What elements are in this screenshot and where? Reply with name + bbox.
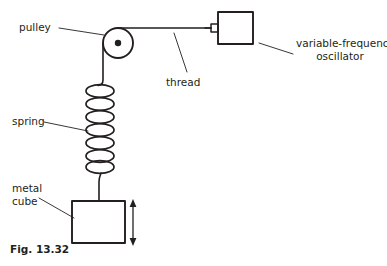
metal-cube	[72, 201, 125, 243]
oscillation-arrow	[130, 199, 137, 246]
figure-13-32: pulley thread variable-frequency oscilla…	[0, 0, 387, 266]
label-spring: spring	[12, 115, 45, 128]
pulley-leader-line	[59, 28, 104, 35]
spring-leader-line	[44, 122, 88, 131]
label-oscillator-line1: variable-frequency	[296, 37, 384, 50]
metal-cube-leader-line	[39, 198, 74, 218]
label-thread: thread	[166, 76, 200, 89]
figure-caption: Fig. 13.32	[10, 243, 69, 255]
thread-leader-line	[174, 33, 187, 72]
label-pulley: pulley	[19, 21, 51, 34]
label-oscillator-line2: oscillator	[296, 50, 384, 63]
variable-frequency-oscillator-box	[218, 12, 253, 44]
label-metal-cube-line1: metal	[12, 182, 42, 195]
spring-to-cube-wire	[99, 173, 101, 201]
thread-vertical-segment	[98, 43, 103, 86]
label-metal-cube-line2: cube	[12, 195, 38, 208]
pulley-axle-icon	[115, 40, 121, 46]
oscillator-terminal	[211, 24, 218, 32]
helical-spring	[86, 85, 114, 174]
oscillator-leader-line	[259, 43, 293, 54]
